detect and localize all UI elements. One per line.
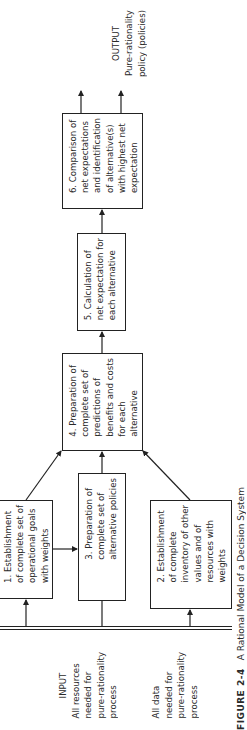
output-text: Pure-rationality policy (policies) — [123, 10, 149, 77]
input-resources-group: INPUTAll resources needed for pure-ratio… — [32, 652, 132, 718]
figure-label: FIGURE 2-4 — [236, 668, 246, 730]
box-3-text: 3. Preparation of complete set of altern… — [83, 478, 120, 560]
figure-caption: FIGURE 2-4A Rational Model of a Decision… — [236, 420, 246, 730]
box-2-text: 2. Establishment of complete inventory o… — [155, 505, 228, 583]
box-6-comparison: 6. Comparison of net expectations and id… — [62, 113, 143, 209]
output-label: OUTPUT — [110, 10, 123, 77]
box-3-alternatives: 3. Preparation of complete set of altern… — [78, 473, 126, 601]
box-6-text: 6. Comparison of net expectations and id… — [67, 118, 140, 193]
box-1-goals: 1. Establishment of complete set of oper… — [0, 500, 53, 599]
box-2-inventory: 2. Establishment of complete inventory o… — [150, 500, 232, 609]
figure-title: A Rational Model of a Decision System — [236, 487, 246, 660]
input-data-text: All data needed for pure-rationality pro… — [150, 652, 200, 718]
box-5-calculation: 5. Calculation of net expectation for ea… — [77, 233, 126, 331]
box-5-text: 5. Calculation of net expectation for ea… — [82, 238, 119, 320]
box-4-predictions: 4. Preparation of complete set of predic… — [62, 353, 143, 451]
input-label: INPUT — [57, 652, 70, 718]
box-1-text: 1. Establishment of complete set of oper… — [2, 505, 51, 583]
output-label-group: OUTPUTPure-rationality policy (policies) — [84, 10, 162, 77]
box-4-text: 4. Preparation of complete set of predic… — [67, 358, 140, 437]
input-resources-text: All resources needed for pure-rationalit… — [70, 652, 120, 718]
